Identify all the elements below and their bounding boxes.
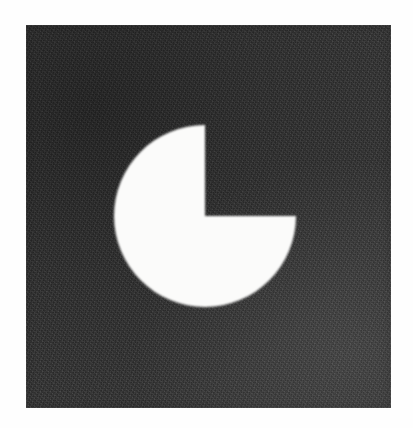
pac-man-wedge-path xyxy=(114,125,296,307)
pac-man-svg xyxy=(26,25,391,408)
dark-background-panel xyxy=(26,25,391,408)
pac-man-shape xyxy=(26,25,391,408)
figure-canvas xyxy=(0,0,413,428)
